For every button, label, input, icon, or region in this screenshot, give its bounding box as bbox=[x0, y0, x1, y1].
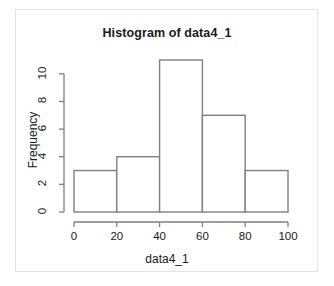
chart-screenshot: Histogram of data4_1 Frequency data4_1 0… bbox=[0, 0, 334, 286]
histogram-bars bbox=[74, 60, 288, 212]
y-tick-label: 4 bbox=[36, 143, 48, 169]
y-tick-label: 2 bbox=[36, 170, 48, 196]
histogram-bar bbox=[245, 171, 288, 212]
x-tick-label: 40 bbox=[140, 230, 180, 242]
x-tick-label: 100 bbox=[268, 230, 308, 242]
histogram-bar bbox=[160, 60, 203, 212]
x-tick-label: 0 bbox=[54, 230, 94, 242]
y-tick-label: 6 bbox=[36, 115, 48, 141]
x-tick-label: 20 bbox=[97, 230, 137, 242]
histogram-plot bbox=[0, 0, 334, 286]
histogram-bar bbox=[202, 115, 245, 212]
histogram-bar bbox=[117, 157, 160, 212]
x-tick-label: 60 bbox=[182, 230, 222, 242]
y-tick-label: 10 bbox=[36, 60, 48, 86]
x-tick-label: 80 bbox=[225, 230, 265, 242]
y-tick-label: 8 bbox=[36, 87, 48, 113]
histogram-bar bbox=[74, 171, 117, 212]
y-tick-label: 0 bbox=[36, 198, 48, 224]
